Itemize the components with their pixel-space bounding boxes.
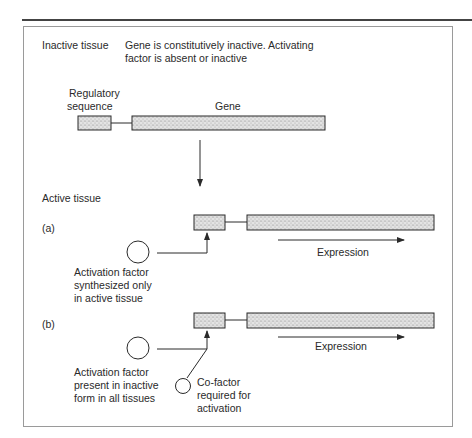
b-binding-arrow <box>157 331 207 349</box>
inactive-gene-box <box>132 116 325 130</box>
active-b-construct <box>127 313 434 394</box>
a-factor-line3: in active tissue <box>74 292 143 305</box>
a-gene-box <box>247 215 434 230</box>
a-factor-line1: Activation factor <box>74 266 149 279</box>
active-a-construct <box>127 215 434 263</box>
cofactor-line3: activation <box>197 402 241 415</box>
cofactor-line2: required for <box>197 389 251 402</box>
inactive-description-line2: factor is absent or inactive <box>125 52 247 65</box>
gene-label: Gene <box>215 100 241 113</box>
case-a-label: (a) <box>42 222 55 235</box>
a-expression-label: Expression <box>317 246 369 259</box>
gene-regulation-diagram <box>0 0 472 438</box>
cofactor-line1: Co-factor <box>197 376 240 389</box>
regulatory-label-line2: sequence <box>67 100 113 113</box>
b-gene-box <box>247 313 434 328</box>
b-factor-line3: form in all tissues <box>74 392 155 405</box>
b-cofactor-circle <box>176 379 191 394</box>
inactive-gene-construct <box>78 116 325 130</box>
b-activation-factor-circle <box>127 337 149 359</box>
inactive-description-line1: Gene is constitutively inactive. Activat… <box>125 39 314 52</box>
b-factor-line1: Activation factor <box>74 366 149 379</box>
regulatory-label-line1: Regulatory <box>69 87 120 100</box>
inactive-regulatory-box <box>78 116 111 130</box>
b-factor-line2: present in inactive <box>74 379 159 392</box>
case-b-label: (b) <box>42 318 55 331</box>
b-regulatory-box <box>194 313 225 328</box>
active-tissue-heading: Active tissue <box>42 192 101 205</box>
inactive-tissue-heading: Inactive tissue <box>42 39 109 52</box>
a-binding-arrow <box>157 233 207 253</box>
a-factor-line2: synthesized only <box>74 279 152 292</box>
a-activation-factor-circle <box>127 241 149 263</box>
a-regulatory-box <box>194 215 225 230</box>
b-expression-label: Expression <box>315 340 367 353</box>
b-cofactor-link <box>187 349 207 378</box>
